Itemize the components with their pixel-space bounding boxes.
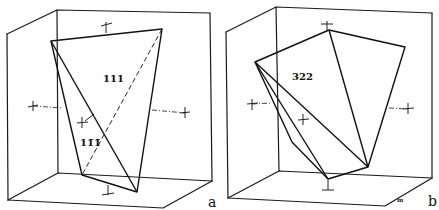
face-label-322: 322 [292,71,313,82]
face-label-1-1bar-1bar: 11̄1̄ [80,137,101,148]
face-label-111: 111 [103,73,124,84]
corner-mark-m: m [397,196,404,203]
panel-a: 111 11̄1̄ a [7,10,216,210]
panel-b-axes [247,21,414,190]
crystal-figure: 111 11̄1̄ a [0,0,439,210]
panel-a-box [7,10,212,208]
panel-a-crystal [51,29,162,192]
panel-b: 322 m b [226,7,437,209]
panel-label-a: a [208,194,216,210]
panel-label-b: b [428,193,437,209]
panel-b-box [226,7,432,206]
